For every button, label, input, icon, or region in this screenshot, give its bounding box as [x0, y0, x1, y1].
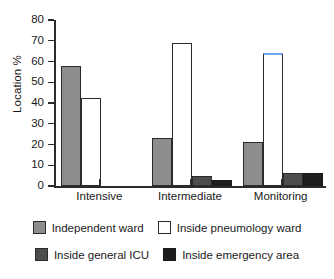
bar	[303, 173, 323, 186]
legend-label: Inside emergency area	[182, 249, 299, 261]
x-axis-category-label: Monitoring	[235, 190, 326, 202]
bar	[263, 53, 283, 186]
legend-label: Inside pneumology ward	[177, 222, 302, 234]
bar	[243, 142, 263, 186]
x-axis-group-tick	[190, 179, 191, 187]
x-axis-category-label: Intensive	[54, 190, 145, 202]
bar	[212, 180, 232, 186]
bar	[283, 173, 303, 186]
x-axis-group-tick	[281, 179, 282, 187]
legend-swatch-icon	[158, 221, 171, 234]
plot-area: Location % 01020304050607080 IntensiveIn…	[0, 0, 334, 210]
legend-row: Inside general ICU Inside emergency area	[0, 241, 334, 268]
legend-item-inside-general-icu: Inside general ICU	[35, 248, 149, 261]
legend-swatch-icon	[163, 248, 176, 261]
legend-swatch-icon	[35, 248, 48, 261]
x-axis-category-label: Intermediate	[145, 190, 236, 202]
legend-label: Independent ward	[52, 222, 144, 234]
bar	[192, 176, 212, 186]
bar	[172, 43, 192, 186]
bar	[61, 66, 81, 186]
bar	[152, 138, 172, 186]
chart-legend: Independent ward Inside pneumology ward …	[0, 214, 334, 268]
legend-item-inside-emergency-area: Inside emergency area	[163, 248, 299, 261]
bar-chart-figure: Location % 01020304050607080 IntensiveIn…	[0, 0, 334, 279]
x-axis-group-tick	[99, 179, 100, 187]
legend-row: Independent ward Inside pneumology ward	[0, 214, 334, 241]
legend-item-inside-pneumology-ward: Inside pneumology ward	[158, 221, 302, 234]
legend-item-independent-ward: Independent ward	[33, 221, 144, 234]
legend-label: Inside general ICU	[54, 249, 149, 261]
legend-swatch-icon	[33, 221, 46, 234]
bars-layer	[0, 0, 334, 210]
bar	[81, 98, 101, 186]
